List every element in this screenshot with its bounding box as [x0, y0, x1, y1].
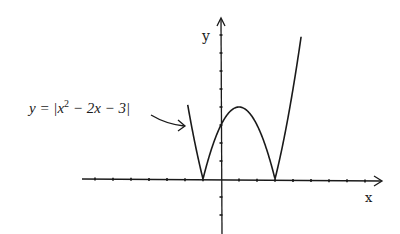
function-graph: y x y = |x2 − 2x − 3| [0, 0, 400, 234]
x-axis-label: x [365, 190, 373, 205]
equation-label: y = |x2 − 2x − 3| [27, 98, 130, 116]
annotation-arrow-icon [151, 115, 185, 131]
x-axis [82, 176, 382, 186]
y-axis-label: y [201, 28, 210, 44]
abs-quadratic-curve [188, 37, 301, 179]
